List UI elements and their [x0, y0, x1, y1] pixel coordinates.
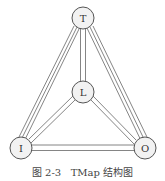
edge-T-O [87, 26, 147, 139]
node-L-label: L [80, 87, 87, 98]
edge-T-I [19, 26, 80, 139]
edge-T-L [81, 29, 86, 81]
edge-I-O [32, 145, 134, 151]
node-L: L [72, 81, 94, 103]
node-T: T [72, 7, 94, 29]
figure-caption: 图 2-3 TMap 结构图 [0, 164, 165, 179]
edge-L-O [91, 96, 136, 144]
node-T-label: T [80, 13, 87, 24]
node-I-label: I [19, 143, 23, 154]
node-O-label: O [141, 143, 149, 154]
node-I: I [10, 137, 32, 159]
tmap-structure-diagram: T L I O [0, 0, 165, 181]
node-O: O [134, 137, 156, 159]
